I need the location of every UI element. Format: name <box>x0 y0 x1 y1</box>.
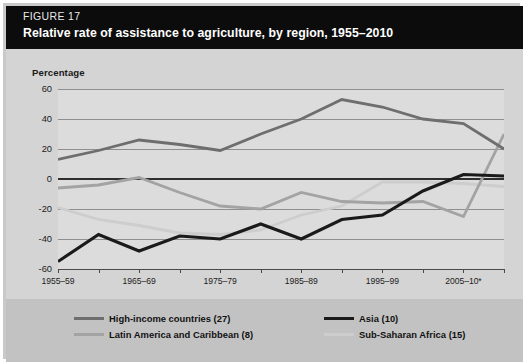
y-axis-label: Percentage <box>32 67 85 78</box>
legend-swatch <box>74 317 104 320</box>
chart-body: Percentage 6040200-20-40-60 1955–591965–… <box>6 49 523 299</box>
x-tick-label: 1965–69 <box>109 276 169 286</box>
x-tick <box>342 269 343 273</box>
legend-label: Asia (10) <box>359 313 398 324</box>
x-tick <box>58 269 59 273</box>
y-tick-label: 0 <box>26 175 52 184</box>
legend-label: Sub-Saharan Africa (15) <box>359 329 465 340</box>
series-line <box>58 134 504 217</box>
y-tick-label: 60 <box>26 85 52 94</box>
legend-label: Latin America and Caribbean (8) <box>109 329 253 340</box>
figure-number: FIGURE 17 <box>23 10 523 23</box>
x-tick <box>99 269 100 273</box>
series-line <box>58 175 504 262</box>
x-tick-label: 1975–79 <box>190 276 250 286</box>
x-tick-label: 1985–89 <box>271 276 331 286</box>
x-tick <box>301 269 302 273</box>
plot-area <box>58 89 504 269</box>
x-tick <box>504 269 505 273</box>
y-tick-label: 40 <box>26 115 52 124</box>
x-tick <box>423 269 424 273</box>
series-line <box>58 182 504 235</box>
x-tick <box>382 269 383 273</box>
legend-swatch <box>74 333 104 336</box>
legend-swatch <box>324 333 354 336</box>
x-tick-label: 1995–99 <box>352 276 412 286</box>
y-tick-label: -60 <box>26 265 52 274</box>
x-tick-label: 2005–10* <box>433 276 493 286</box>
figure-title: Relative rate of assistance to agricultu… <box>23 25 523 41</box>
series-line <box>58 100 504 160</box>
figure-header: FIGURE 17 Relative rate of assistance to… <box>6 6 523 49</box>
x-tick-label: 1955–59 <box>28 276 88 286</box>
y-tick-label: 20 <box>26 145 52 154</box>
y-axis-ticks: 6040200-20-40-60 <box>24 89 52 269</box>
x-tick <box>261 269 262 273</box>
legend-swatch <box>324 317 354 320</box>
x-tick <box>220 269 221 273</box>
chart-legend: High-income countries (27)Latin America … <box>6 299 523 362</box>
figure-container: FIGURE 17 Relative rate of assistance to… <box>0 0 523 362</box>
y-tick-label: -40 <box>26 235 52 244</box>
x-tick <box>139 269 140 273</box>
x-axis-line <box>58 269 504 270</box>
y-tick-label: -20 <box>26 205 52 214</box>
series-lines <box>58 89 504 269</box>
legend-label: High-income countries (27) <box>109 313 230 324</box>
x-tick <box>180 269 181 273</box>
x-tick <box>463 269 464 273</box>
